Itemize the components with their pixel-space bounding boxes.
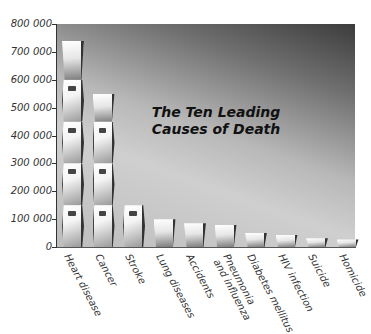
coffin-plate — [129, 211, 136, 216]
y-tick-label: 800 000 — [2, 19, 52, 29]
coffin-icon — [93, 205, 115, 247]
bar-hiv-infection — [276, 235, 298, 247]
bar-stroke — [123, 205, 145, 247]
partial-coffin-icon — [306, 238, 328, 247]
y-tick-mark — [52, 108, 57, 109]
bar-lung-diseases — [154, 219, 176, 247]
coffin-icon — [62, 163, 84, 205]
coffin-plate — [68, 211, 75, 216]
title-line-2: Causes of Death — [146, 121, 286, 138]
x-axis — [56, 247, 356, 248]
bar-accidents — [184, 223, 206, 247]
partial-coffin-icon — [215, 225, 237, 247]
bar-pneumonia-and-influenza — [215, 225, 237, 247]
x-tick-label: Accidents — [184, 252, 217, 300]
x-tick-label-line: Cancer — [93, 252, 119, 288]
partial-coffin-icon — [154, 219, 176, 247]
bar-suicide — [306, 238, 328, 247]
partial-coffin-icon — [93, 94, 115, 122]
coffin-plate — [68, 128, 75, 133]
coffin-icon — [93, 163, 115, 205]
y-tick-mark — [52, 52, 57, 53]
coffin-plate — [68, 86, 75, 91]
coffin-icon — [62, 122, 84, 164]
x-tick-label-line: Stroke — [123, 252, 148, 286]
bar-cancer — [93, 94, 115, 247]
y-tick-label: 500 000 — [2, 103, 52, 113]
x-tick-label-line: Homicide — [337, 252, 369, 299]
y-tick-label: 0 — [2, 242, 52, 252]
partial-coffin-icon — [62, 41, 84, 80]
partial-coffin-icon — [337, 239, 359, 247]
y-tick-mark — [52, 247, 57, 248]
coffin-icon — [93, 122, 115, 164]
title-line-1: The Ten Leading — [146, 104, 286, 121]
y-tick-label: 300 000 — [2, 158, 52, 168]
x-tick-label: Homicide — [337, 252, 369, 299]
partial-coffin-icon — [245, 233, 267, 247]
partial-coffin-icon — [276, 235, 298, 247]
y-tick-mark — [52, 136, 57, 137]
coffin-plate — [68, 169, 75, 174]
bar-homicide — [337, 239, 359, 247]
coffin-icon — [62, 205, 84, 247]
coffin-plate — [99, 169, 106, 174]
coffin-plate — [99, 128, 106, 133]
y-tick-label: 200 000 — [2, 186, 52, 196]
coffin-icon — [123, 205, 145, 247]
y-tick-mark — [52, 80, 57, 81]
chart-title: The Ten Leading Causes of Death — [146, 104, 286, 138]
x-tick-label: Suicide — [306, 252, 333, 289]
y-tick-label: 700 000 — [2, 47, 52, 57]
y-tick-mark — [52, 191, 57, 192]
y-tick-mark — [52, 219, 57, 220]
y-tick-label: 400 000 — [2, 131, 52, 141]
x-tick-label: Stroke — [123, 252, 148, 286]
y-tick-mark — [52, 163, 57, 164]
coffin-plate — [99, 211, 106, 216]
y-tick-mark — [52, 24, 57, 25]
partial-coffin-icon — [184, 223, 206, 247]
x-tick-label-line: Suicide — [306, 252, 333, 289]
bar-diabetes-mellitus — [245, 233, 267, 247]
bar-heart-disease — [62, 41, 84, 247]
coffin-icon — [62, 80, 84, 122]
x-tick-label-line: Accidents — [184, 252, 217, 300]
y-tick-label: 100 000 — [2, 214, 52, 224]
x-tick-label: Cancer — [93, 252, 119, 288]
y-tick-label: 600 000 — [2, 75, 52, 85]
